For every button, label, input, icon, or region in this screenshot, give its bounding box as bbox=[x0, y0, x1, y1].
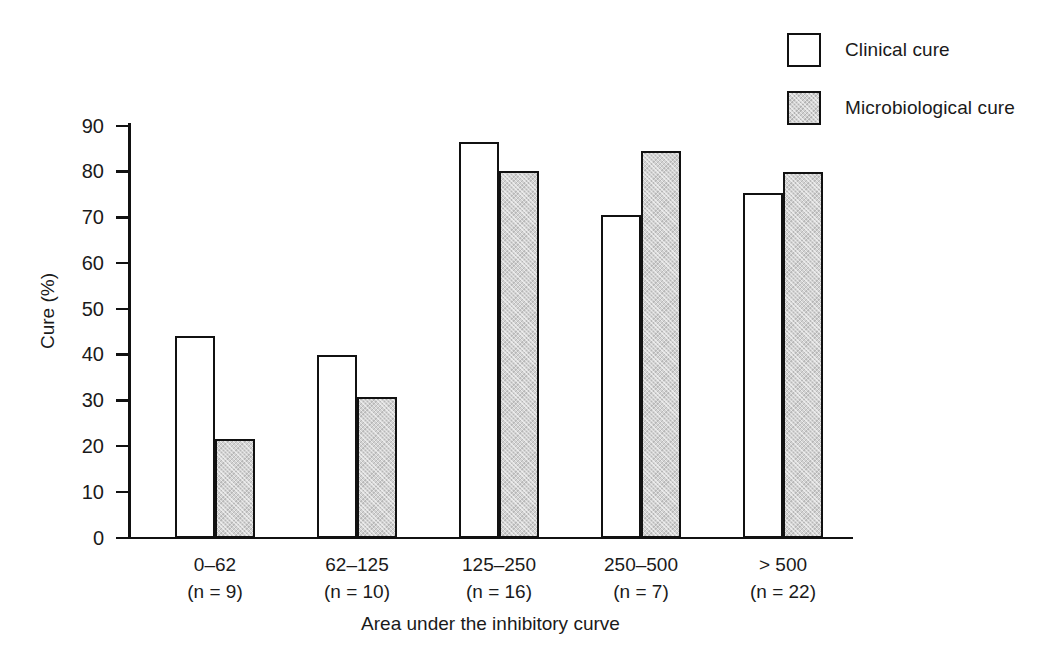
y-axis-tick-mark bbox=[116, 399, 128, 402]
legend-swatch-clinical-cure bbox=[787, 33, 821, 67]
legend-item-clinical-cure: Clinical cure bbox=[787, 33, 1015, 67]
legend-label-clinical-cure: Clinical cure bbox=[845, 39, 950, 61]
bar-clinical-cure-group-4 bbox=[601, 215, 641, 538]
category-range-text: > 500 bbox=[683, 551, 883, 578]
y-axis-tick-label: 0 bbox=[93, 527, 104, 550]
legend-item-microbiological-cure: Microbiological cure bbox=[787, 91, 1015, 125]
x-axis-category-label-5: > 500(n = 22) bbox=[683, 551, 883, 605]
bar-clinical-cure-group-1 bbox=[175, 336, 215, 539]
y-axis-title: Cure (%) bbox=[37, 241, 59, 381]
y-axis-tick-label: 10 bbox=[82, 481, 104, 504]
y-axis-tick-mark bbox=[116, 537, 128, 540]
y-axis-tick-mark bbox=[116, 308, 128, 311]
bar-microbiological-cure-group-5 bbox=[783, 172, 823, 538]
y-axis-tick-label: 80 bbox=[82, 160, 104, 183]
bar-microbiological-cure-group-1 bbox=[215, 439, 255, 538]
y-axis-tick-mark bbox=[116, 445, 128, 448]
legend-swatch-microbiological-cure bbox=[787, 91, 821, 125]
y-axis-tick-label: 90 bbox=[82, 115, 104, 138]
bar-microbiological-cure-group-3 bbox=[499, 171, 539, 539]
y-axis-tick-mark bbox=[116, 125, 128, 128]
bar-clinical-cure-group-5 bbox=[743, 193, 783, 538]
y-axis-tick-label: 20 bbox=[82, 435, 104, 458]
chart-legend: Clinical cure Microbiological cure bbox=[787, 33, 1015, 149]
y-axis-tick-label: 40 bbox=[82, 343, 104, 366]
legend-label-microbiological-cure: Microbiological cure bbox=[845, 97, 1015, 119]
y-axis-tick-label: 50 bbox=[82, 298, 104, 321]
y-axis-tick-label: 70 bbox=[82, 206, 104, 229]
bar-clinical-cure-group-3 bbox=[459, 142, 499, 539]
y-axis-tick-mark bbox=[116, 262, 128, 265]
bar-microbiological-cure-group-4 bbox=[641, 151, 681, 539]
y-axis-tick-mark bbox=[116, 216, 128, 219]
y-axis-tick-mark bbox=[116, 491, 128, 494]
category-count-text: (n = 22) bbox=[683, 578, 883, 605]
y-axis-tick-mark bbox=[116, 170, 128, 173]
y-axis-line bbox=[128, 123, 131, 539]
bar-microbiological-cure-group-2 bbox=[357, 397, 397, 539]
x-axis-title: Area under the inhibitory curve bbox=[128, 613, 853, 635]
bar-clinical-cure-group-2 bbox=[317, 355, 357, 538]
y-axis-tick-label: 60 bbox=[82, 252, 104, 275]
y-axis-tick-mark bbox=[116, 353, 128, 356]
bar-chart: Clinical cure Microbiological cure Cure … bbox=[0, 0, 1063, 655]
y-axis-tick-label: 30 bbox=[82, 389, 104, 412]
